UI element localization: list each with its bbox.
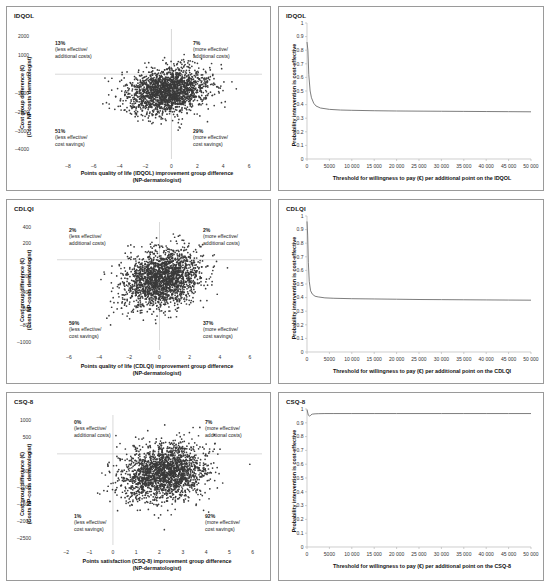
quadrant-label-top-left: 13% (less effective/ additional costs) bbox=[55, 40, 92, 59]
panel-cdlqi-ceac: CDLQI 10.90.80.70.60.50.40.30.20.1005000… bbox=[278, 199, 544, 384]
x-axis-label-line1: Threshold for willingness to pay (€) per… bbox=[333, 175, 512, 181]
quadrant-line1: (less effective/ bbox=[55, 46, 92, 52]
svg-text:5: 5 bbox=[228, 549, 231, 555]
svg-text:–6: –6 bbox=[91, 163, 97, 169]
x-axis-label-idqol-ceac: Threshold for willingness to pay (€) per… bbox=[303, 175, 541, 182]
svg-text:1: 1 bbox=[301, 406, 304, 412]
y-axis-label-line1: Probability intervention is cost-effecti… bbox=[291, 430, 297, 532]
svg-text:10 000: 10 000 bbox=[344, 163, 360, 169]
svg-text:2: 2 bbox=[158, 549, 161, 555]
svg-text:–2: –2 bbox=[127, 354, 133, 360]
y-axis-label-line1: Cost group difference (€) bbox=[19, 65, 25, 129]
quadrant-line1: (less effective/ bbox=[74, 519, 106, 525]
svg-text:20 000: 20 000 bbox=[389, 551, 405, 557]
svg-text:40 000: 40 000 bbox=[479, 551, 495, 557]
svg-text:0: 0 bbox=[170, 163, 173, 169]
quadrant-label-bottom-left: 59% (less effective/ cost savings) bbox=[69, 320, 101, 339]
quadrant-line2: cost savings) bbox=[74, 526, 106, 532]
y-axis-label-line2: (Costs NP-costs dermatologist) bbox=[26, 444, 32, 525]
quadrant-label-top-right: 7% (more effective/ additional costs) bbox=[193, 40, 230, 59]
y-axis-label-line1: Probability intervention is cost-effecti… bbox=[291, 44, 297, 146]
quadrant-line1: (less effective/ bbox=[69, 326, 101, 332]
svg-text:400: 400 bbox=[23, 224, 32, 230]
quadrant-line1: (less effective/ bbox=[74, 425, 111, 431]
x-axis-label-csq8-ceac: Threshold for willingness to pay (€) per… bbox=[303, 563, 541, 570]
x-axis-label-cdlqi-ceac: Threshold for willingness to pay (€) per… bbox=[303, 368, 541, 375]
x-axis-label-line1: Threshold for willingness to pay (€) per… bbox=[333, 368, 511, 374]
svg-text:40 000: 40 000 bbox=[479, 356, 495, 362]
svg-text:35 000: 35 000 bbox=[456, 551, 472, 557]
y-axis-label-csq8-ceac: Probability intervention is cost-effecti… bbox=[291, 417, 298, 545]
svg-text:5000: 5000 bbox=[324, 551, 335, 557]
svg-text:1: 1 bbox=[301, 213, 304, 219]
y-axis-label-line1: Probability intervention is cost-effecti… bbox=[291, 237, 297, 339]
panel-csq8-ceac: CSQ-8 10.90.80.70.60.50.40.30.20.1005000… bbox=[278, 392, 544, 581]
quadrant-label-top-left: 2% (less effective/ additional costs) bbox=[69, 227, 106, 246]
y-axis-label-idqol-plane: Cost group difference (€) (Costs NP-cost… bbox=[19, 37, 33, 157]
svg-text:4: 4 bbox=[222, 163, 225, 169]
quadrant-label-top-right: 7% (more effective/ additional costs) bbox=[205, 419, 242, 438]
x-axis-label-line2: (NP-dermatologist) bbox=[133, 565, 182, 571]
svg-text:4: 4 bbox=[218, 354, 221, 360]
svg-text:–1: –1 bbox=[87, 549, 93, 555]
svg-text:0: 0 bbox=[301, 544, 304, 550]
svg-text:3: 3 bbox=[181, 549, 184, 555]
svg-text:0: 0 bbox=[306, 356, 309, 362]
y-axis-label-line2: (Costs NP-costs dermatologist) bbox=[26, 57, 32, 138]
svg-text:25 000: 25 000 bbox=[411, 551, 427, 557]
quadrant-line2: additional costs) bbox=[69, 240, 106, 246]
y-axis-label-cdlqi-plane: Cost group difference (€) (Costs NP-cost… bbox=[19, 230, 33, 350]
svg-text:20 000: 20 000 bbox=[389, 356, 405, 362]
svg-text:6: 6 bbox=[248, 163, 251, 169]
cost-effectiveness-figure: IDQOL 200010000–1000–2000–3000–4000–8–6–… bbox=[0, 0, 551, 587]
svg-text:25 000: 25 000 bbox=[411, 163, 427, 169]
svg-text:–4: –4 bbox=[96, 354, 102, 360]
y-axis-label-cdlqi-ceac: Probability intervention is cost-effecti… bbox=[291, 224, 298, 352]
quadrant-label-bottom-right: 29% (more effective/ cost savings) bbox=[193, 128, 228, 147]
svg-text:45 000: 45 000 bbox=[501, 356, 517, 362]
svg-text:2: 2 bbox=[196, 163, 199, 169]
svg-text:6: 6 bbox=[249, 354, 252, 360]
svg-text:1: 1 bbox=[301, 20, 304, 26]
y-axis-label-line1: Cost group difference (€) bbox=[19, 258, 25, 322]
y-axis-label-line2: (Costs NP-costs dermatologist) bbox=[26, 250, 32, 331]
svg-text:0: 0 bbox=[301, 156, 304, 162]
quadrant-line1: (more effective/ bbox=[205, 425, 242, 431]
quadrant-line1: (more effective/ bbox=[203, 233, 240, 239]
svg-text:15 000: 15 000 bbox=[367, 356, 383, 362]
svg-text:0: 0 bbox=[306, 163, 309, 169]
quadrant-line1: (more effective/ bbox=[203, 326, 238, 332]
panel-csq8-ce-plane: CSQ-8 10005000–500–1000–1500–2000–2500–2… bbox=[6, 392, 271, 581]
x-axis-label-idqol-plane: Points quality of life (IDQOL) improveme… bbox=[47, 170, 267, 184]
quadrant-line2: additional costs) bbox=[205, 432, 242, 438]
y-axis-label-idqol-ceac: Probability intervention is cost-effecti… bbox=[291, 31, 298, 159]
svg-text:4: 4 bbox=[205, 549, 208, 555]
x-axis-label-line2: (NP-dermatologist) bbox=[133, 177, 182, 183]
quadrant-label-bottom-left: 51% (less effective/ cost savings) bbox=[55, 128, 87, 147]
x-axis-label-line2: (NP-dermatologist) bbox=[133, 370, 182, 376]
svg-text:–8: –8 bbox=[65, 163, 71, 169]
svg-text:30 000: 30 000 bbox=[434, 551, 450, 557]
panel-cdlqi-ce-plane: CDLQI 4002000–200–400–600–800–1000–6–4–2… bbox=[6, 199, 271, 384]
svg-text:1: 1 bbox=[135, 549, 138, 555]
quadrant-line2: cost savings) bbox=[203, 333, 238, 339]
svg-text:–6: –6 bbox=[66, 354, 72, 360]
panel-idqol-ceac: IDQOL 10.90.80.70.60.50.40.30.20.1005000… bbox=[278, 6, 544, 191]
quadrant-line2: additional costs) bbox=[193, 53, 230, 59]
quadrant-line2: cost savings) bbox=[205, 526, 240, 532]
x-axis-label-line1: Threshold for willingness to pay (€) per… bbox=[333, 563, 511, 569]
plot-cdlqi-ceac: 10.90.80.70.60.50.40.30.20.100500010 000… bbox=[279, 200, 545, 385]
x-axis-label-line1: Points quality of life (IDQOL) improveme… bbox=[81, 170, 234, 176]
plot-csq8-ceac: 10.90.80.70.60.50.40.30.20.100500010 000… bbox=[279, 393, 545, 582]
svg-text:15 000: 15 000 bbox=[367, 163, 383, 169]
quadrant-label-bottom-left: 1% (less effective/ cost savings) bbox=[74, 513, 106, 532]
plot-idqol-ceac: 10.90.80.70.60.50.40.30.20.100500010 000… bbox=[279, 7, 545, 192]
svg-text:10 000: 10 000 bbox=[344, 551, 360, 557]
quadrant-line1: (more effective/ bbox=[193, 134, 228, 140]
svg-text:30 000: 30 000 bbox=[434, 163, 450, 169]
x-axis-label-csq8-plane: Points satisfaction (CSQ-8) improvement … bbox=[47, 558, 267, 572]
quadrant-line1: (more effective/ bbox=[205, 519, 240, 525]
svg-text:45 000: 45 000 bbox=[501, 551, 517, 557]
quadrant-line1: (more effective/ bbox=[193, 46, 230, 52]
svg-text:2: 2 bbox=[188, 354, 191, 360]
